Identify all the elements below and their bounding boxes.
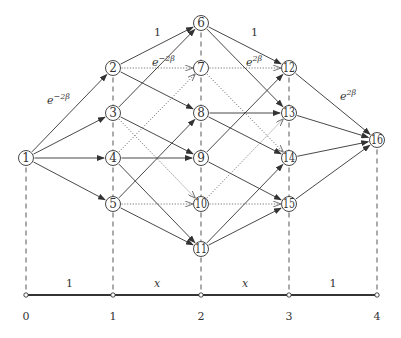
node-label: 3 [109, 106, 117, 120]
node-5: 5 [106, 197, 121, 212]
axis-point-2 [199, 293, 203, 297]
node-12: 12 [282, 61, 297, 76]
edge-8-to-14 [209, 117, 281, 154]
node-8: 8 [194, 106, 209, 121]
axis: 012341xx1 [23, 277, 381, 323]
edge-label-2: e−2β [152, 54, 175, 69]
node-label: 5 [109, 197, 117, 211]
tick-label-1: 1 [110, 310, 117, 323]
node-label: 6 [197, 16, 205, 30]
edge-12-to-16 [296, 73, 370, 134]
segment-label-3: 1 [330, 277, 337, 290]
node-3: 3 [106, 106, 121, 121]
edge-1-to-2 [32, 74, 107, 151]
node-label: 1 [22, 151, 30, 165]
edge-10-to-13 [207, 119, 283, 197]
node-label: 13 [283, 106, 295, 120]
edge-label-5: e2β [340, 88, 357, 103]
edge-11-to-15 [209, 208, 281, 245]
nodes: 12345678910111213141516 [19, 16, 385, 257]
edge-3-to-9 [121, 117, 193, 154]
node-15: 15 [282, 197, 297, 212]
node-label: 9 [197, 151, 205, 165]
trellis-diagram: 12345678910111213141516 e−2β1e−2β1e2βe2β… [0, 0, 401, 338]
tick-label-4: 4 [374, 310, 381, 323]
edge-2-to-8 [121, 72, 193, 109]
node-10: 10 [194, 197, 209, 212]
node-label: 2 [109, 61, 117, 75]
edge-label-1: 1 [154, 26, 161, 39]
axis-point-3 [287, 293, 291, 297]
node-label: 16 [371, 133, 383, 147]
node-2: 2 [106, 61, 121, 76]
node-label: 14 [283, 151, 295, 165]
node-label: 4 [109, 151, 117, 165]
tick-label-3: 3 [286, 310, 293, 323]
node-14: 14 [282, 151, 297, 166]
axis-point-0 [24, 293, 28, 297]
axis-point-4 [375, 293, 379, 297]
node-1: 1 [19, 151, 34, 166]
node-9: 9 [194, 151, 209, 166]
edge-9-to-15 [209, 162, 281, 200]
edge-15-to-16 [296, 145, 370, 199]
tick-label-0: 0 [23, 310, 30, 323]
node-4: 4 [106, 151, 121, 166]
node-label: 7 [197, 61, 205, 75]
edge-6-to-12 [209, 27, 281, 64]
edge-1-to-5 [34, 162, 106, 200]
segment-label-2: x [242, 277, 249, 290]
node-label: 10 [195, 197, 207, 211]
axis-point-1 [111, 293, 115, 297]
edge-13-to-16 [297, 115, 368, 137]
edge-4-to-11 [119, 164, 195, 242]
edge-label-4: e2β [246, 54, 263, 69]
node-16: 16 [370, 133, 385, 148]
node-7: 7 [194, 61, 209, 76]
node-label: 15 [283, 197, 295, 211]
tick-label-2: 2 [198, 310, 205, 323]
node-6: 6 [194, 16, 209, 31]
edge-label-0: e−2β [47, 92, 70, 107]
edge-4-to-7 [119, 74, 195, 151]
edge-label-3: 1 [251, 26, 258, 39]
trellis-svg: 12345678910111213141516 e−2β1e−2β1e2βe2β… [0, 0, 401, 338]
node-11: 11 [194, 242, 209, 257]
edge-5-to-11 [121, 208, 193, 245]
node-label: 11 [195, 242, 207, 256]
segment-label-0: 1 [66, 277, 73, 290]
edge-1-to-3 [34, 117, 105, 154]
node-label: 12 [283, 61, 295, 75]
node-label: 8 [197, 106, 205, 120]
segment-label-1: x [154, 277, 161, 290]
node-13: 13 [282, 106, 297, 121]
